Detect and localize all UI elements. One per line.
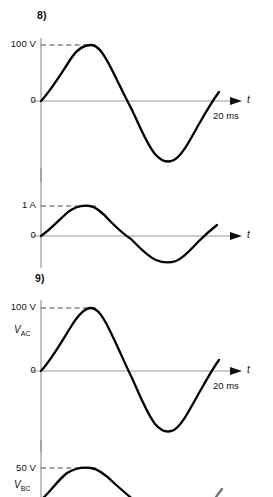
graph-9-vbc-peak-label: 50 V — [0, 462, 36, 473]
graph-8-voltage-origin-label: 0 — [0, 94, 36, 105]
graph-9-vac-t-axis-label: t — [247, 364, 250, 375]
question-number-9: 9) — [35, 272, 45, 284]
graph-9-vbc-quantity-label: VBC — [14, 479, 31, 492]
graph-8-voltage-t-axis-label: t — [247, 94, 250, 105]
graph-9-vac-origin-label: 0 — [0, 364, 36, 375]
graph-8-current-origin-label: 0 — [0, 229, 36, 240]
graph-9-vac-peak-label: 100 V — [0, 301, 36, 312]
graph-9-vac-period-label: 20 ms — [213, 380, 239, 391]
vac-subscript: AC — [21, 330, 31, 337]
vac-symbol: V — [14, 324, 21, 335]
graph-8-voltage-curve — [41, 45, 219, 161]
graph-9-vbc-curve — [41, 468, 135, 497]
graph-8-current-axes — [32, 168, 242, 268]
waveform-plot-layer — [0, 0, 273, 497]
graph-8-voltage-period-label: 20 ms — [213, 110, 239, 121]
graph-8-current-peak-label: 1 A — [0, 199, 36, 210]
question-number-8: 8) — [37, 9, 47, 21]
graph-9-vac-axes — [32, 300, 242, 452]
vbc-symbol: V — [14, 479, 21, 490]
graph-8-current-curve — [41, 206, 217, 263]
worksheet-page: 8) 100 V 0 t 20 ms 1 A 0 t 9) 100 V VAC … — [0, 0, 273, 497]
graph-8-voltage-peak-label: 100 V — [0, 38, 36, 49]
graph-9-vbc-partial-mark — [216, 489, 222, 497]
graph-9-vac-quantity-label: VAC — [14, 324, 31, 337]
graph-8-voltage-axes — [32, 38, 242, 182]
graph-8-current-t-axis-label: t — [247, 229, 250, 240]
vbc-subscript: BC — [21, 485, 31, 492]
graph-9-vac-curve — [41, 308, 219, 431]
